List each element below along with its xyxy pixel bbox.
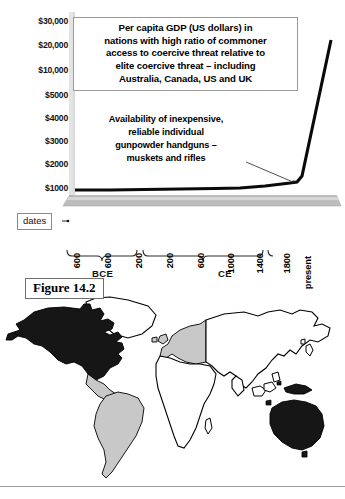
x-tick-label: 200: [134, 253, 143, 268]
gdp-chart: $30,000 $20,000 $10,000 $5000 $4000 $300…: [0, 0, 345, 290]
map-region-borneo: [264, 382, 276, 392]
x-tick-label: 200: [165, 253, 174, 268]
chart-callout-box: Per capita GDP (US dollars) in nations w…: [73, 17, 298, 91]
map-region-ireland: [152, 337, 157, 342]
x-tick-label: 600: [72, 253, 81, 268]
x-tick-label: 1400: [255, 253, 264, 273]
x-tick-label: 600: [196, 253, 205, 268]
map-region-philippines: [272, 372, 280, 382]
map-island-dark-a: [277, 381, 281, 385]
annotation-line: Availability of inexpensive,: [76, 113, 256, 126]
map-region-british-isles: [158, 334, 168, 344]
page-bottom-divider: [0, 486, 345, 487]
callout-line: elite coercive threat – including: [79, 60, 292, 73]
annotation-line: muskets and rifles: [76, 152, 256, 165]
callout-line: Australia, Canada, US and UK: [79, 73, 292, 86]
map-region-madagascar: [205, 418, 212, 434]
map-region-south-america: [94, 392, 144, 478]
callout-line: nations with high ratio of commoner: [79, 35, 292, 48]
world-map: [0, 288, 345, 488]
chart-annotation-text: Availability of inexpensive, reliable in…: [76, 113, 256, 165]
callout-line: Per capita GDP (US dollars) in: [79, 22, 292, 35]
callout-line: access to coercive threat relative to: [79, 47, 292, 60]
annotation-leader-dot: [292, 181, 295, 184]
figure-caption: Figure 14.2: [25, 278, 104, 299]
annotation-line: gunpowder handguns –: [76, 139, 256, 152]
annotation-line: reliable individual: [76, 126, 256, 139]
map-region-australia: [270, 400, 324, 450]
era-label-ce: CE: [218, 268, 232, 279]
map-region-new-guinea: [284, 384, 312, 394]
world-map-svg: [0, 288, 345, 488]
x-axis-tick-labels: 600 600 200 200 600 1000 1400 1800 prese…: [0, 212, 345, 256]
x-tick-label-present: present: [303, 256, 312, 289]
plot-floor-highlight: [67, 196, 339, 200]
map-region-africa: [156, 356, 216, 448]
map-region-japan: [306, 344, 313, 356]
x-tick-label: 1800: [282, 253, 291, 273]
x-tick-label: 600: [103, 253, 112, 268]
map-region-tasmania: [302, 451, 307, 457]
figure-page: $30,000 $20,000 $10,000 $5000 $4000 $300…: [0, 0, 345, 499]
map-island-dark-b: [266, 400, 271, 405]
map-region-hokkaido: [301, 339, 305, 344]
